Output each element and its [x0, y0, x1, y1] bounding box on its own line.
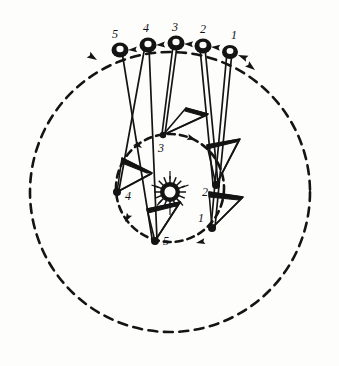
wedge-inner-3	[163, 108, 208, 135]
inner-marker-5	[151, 237, 159, 245]
outer-label-5: 5	[112, 27, 118, 41]
outer-label-4: 4	[143, 21, 149, 35]
inner-label-5: 5	[163, 234, 169, 248]
inner-marker-2	[212, 181, 220, 189]
inner-label-4: 4	[125, 189, 131, 203]
outer-marker-4	[140, 38, 166, 53]
arrowhead-icon	[87, 52, 99, 63]
arrowhead-icon	[195, 238, 205, 246]
arrowhead-icon	[245, 61, 257, 73]
outer-label-1: 1	[231, 28, 237, 42]
inner-marker-3	[160, 132, 166, 138]
figure-canvas: 1 2 3 4 5 1 2 3 4 5	[0, 0, 339, 366]
outer-marker-5	[112, 43, 138, 58]
orbital-diagram: 1 2 3 4 5 1 2 3 4 5	[0, 0, 339, 366]
outer-label-3: 3	[171, 20, 178, 34]
inner-label-2: 2	[202, 185, 208, 199]
inner-label-3: 3	[157, 141, 164, 155]
outer-label-2: 2	[200, 22, 206, 36]
inner-marker-4	[113, 188, 121, 196]
inner-marker-1	[208, 224, 216, 232]
outer-marker-2	[195, 39, 221, 54]
wedge-inner-1	[209, 192, 243, 228]
outer-marker-3	[168, 36, 194, 51]
inner-label-1: 1	[198, 211, 204, 225]
